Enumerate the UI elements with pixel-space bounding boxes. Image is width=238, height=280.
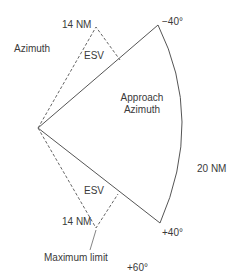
maximum-limit-label: Maximum limit xyxy=(44,252,108,263)
approach-azimuth-diagram xyxy=(0,0,238,280)
esv-lower-label: ESV xyxy=(84,185,104,196)
upper-angle-label: −40° xyxy=(162,16,183,27)
range-20nm-label: 20 NM xyxy=(197,163,226,174)
approach-azimuth-sector xyxy=(38,25,182,223)
esv-upper-label: ESV xyxy=(84,50,104,61)
maximum-limit-angle-label: +60° xyxy=(127,262,148,273)
esv-upper-range-label: 14 NM xyxy=(62,19,91,30)
esv-lower-boundary xyxy=(38,128,118,228)
azimuth-title: Azimuth xyxy=(14,43,50,54)
esv-upper-boundary xyxy=(38,27,120,128)
approach-azimuth-label-line1: Approach xyxy=(112,92,172,103)
approach-azimuth-label-line2: Azimuth xyxy=(112,104,172,115)
esv-lower-range-label: 14 NM xyxy=(62,216,91,227)
lower-angle-label: +40° xyxy=(162,227,183,238)
maximum-limit-leader xyxy=(90,230,96,250)
